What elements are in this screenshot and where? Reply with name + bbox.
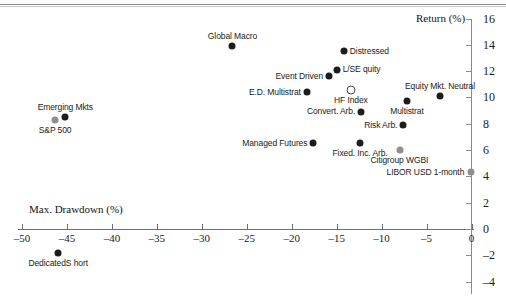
top-border-rule-secondary <box>0 6 506 7</box>
y-tick-label-6: 8 <box>483 116 489 131</box>
x-axis-title: Max. Drawdown (%) <box>29 203 123 215</box>
data-point-e-d-multistrat[interactable] <box>303 89 310 96</box>
data-point-global-macro[interactable] <box>229 43 236 50</box>
y-axis-title: Return (%) <box>416 12 465 24</box>
data-point-label-12: Managed Futures <box>242 138 307 148</box>
scatter-chart-figure: Max. Drawdown (%) Return (%) –50–45–40–3… <box>0 0 506 297</box>
x-tick-label-3: –35 <box>149 232 166 244</box>
x-tick-mark-3 <box>157 224 158 230</box>
data-point-event-driven[interactable] <box>325 73 332 80</box>
data-point-fixed-inc-arb[interactable] <box>357 140 364 147</box>
x-tick-label-5: –25 <box>239 232 256 244</box>
y-tick-label-7: 10 <box>483 90 495 105</box>
data-point-dedicateds-hort[interactable] <box>54 249 61 256</box>
x-tick-label-0: –50 <box>14 232 31 244</box>
x-tick-mark-7 <box>337 224 338 230</box>
data-point-risk-arb[interactable] <box>400 122 407 129</box>
y-tick-label-0: –4 <box>483 274 495 289</box>
x-tick-label-8: –10 <box>373 232 390 244</box>
data-point-label-1: Distressed <box>350 46 389 56</box>
data-point-label-10: S&P 500 <box>39 125 72 135</box>
data-point-label-4: Equity Mkt. Neutral <box>405 81 475 91</box>
x-tick-mark-0 <box>22 224 23 230</box>
data-point-hf-index[interactable] <box>347 85 356 94</box>
x-tick-label-6: –20 <box>283 232 300 244</box>
data-point-label-14: Citigroup WGBI <box>371 155 429 165</box>
y-tick-mark-10 <box>466 19 472 20</box>
x-tick-label-4: –30 <box>194 232 211 244</box>
data-point-s-p-500[interactable] <box>52 116 59 123</box>
data-point-equity-mkt-neutral[interactable] <box>437 93 444 100</box>
data-point-label-0: Global Macro <box>208 31 257 41</box>
data-point-l-se-quity[interactable] <box>333 66 340 73</box>
x-tick-label-9: –5 <box>421 232 432 244</box>
data-point-label-5: E.D. Multistrat <box>249 87 301 97</box>
x-tick-mark-1 <box>67 224 68 230</box>
y-tick-mark-8 <box>466 71 472 72</box>
y-tick-label-4: 4 <box>483 169 489 184</box>
data-point-label-15: LIBOR USD 1-month <box>387 167 465 177</box>
data-point-multistrat[interactable] <box>403 98 410 105</box>
x-tick-mark-8 <box>382 224 383 230</box>
data-point-distressed[interactable] <box>340 48 347 55</box>
data-point-emerging-mkts[interactable] <box>62 114 69 121</box>
y-tick-label-9: 14 <box>483 37 495 52</box>
x-tick-mark-9 <box>427 224 428 230</box>
x-tick-label-10: 0 <box>469 232 475 244</box>
data-point-label-6: HF Index <box>334 95 368 105</box>
y-tick-label-10: 16 <box>483 11 495 26</box>
data-point-label-7: Multistrat <box>390 106 423 116</box>
x-tick-label-7: –15 <box>328 232 345 244</box>
data-point-label-11: Risk Arb. <box>364 120 397 130</box>
data-point-label-9: Emerging Mkts <box>38 102 93 112</box>
x-tick-mark-5 <box>247 224 248 230</box>
y-tick-label-5: 6 <box>483 143 489 158</box>
y-tick-mark-0 <box>466 282 472 283</box>
data-point-label-2: L/SE quity <box>343 64 381 74</box>
y-tick-mark-4 <box>466 176 472 177</box>
data-point-convert-arb[interactable] <box>357 108 364 115</box>
data-point-label-16: DedicatedS hort <box>28 258 87 268</box>
x-tick-mark-2 <box>112 224 113 230</box>
y-tick-mark-6 <box>466 124 472 125</box>
y-tick-label-2: 0 <box>483 222 489 237</box>
y-tick-mark-3 <box>466 203 472 204</box>
top-border-rule <box>0 4 506 5</box>
data-point-libor-usd-1-month[interactable] <box>467 169 474 176</box>
y-tick-mark-1 <box>466 255 472 256</box>
y-axis-line <box>471 19 472 294</box>
data-point-citigroup-wgbi[interactable] <box>396 147 403 154</box>
y-tick-mark-9 <box>466 45 472 46</box>
data-point-managed-futures[interactable] <box>310 140 317 147</box>
data-point-label-8: Convert. Arb. <box>307 106 355 116</box>
data-point-label-3: Event Driven <box>276 71 323 81</box>
y-tick-mark-7 <box>466 97 472 98</box>
x-tick-mark-4 <box>202 224 203 230</box>
x-tick-label-2: –40 <box>104 232 121 244</box>
y-tick-mark-5 <box>466 150 472 151</box>
x-tick-mark-6 <box>292 224 293 230</box>
y-tick-mark-2 <box>466 229 472 230</box>
x-tick-label-1: –45 <box>59 232 76 244</box>
y-tick-label-1: –2 <box>483 248 495 263</box>
y-tick-label-8: 12 <box>483 64 495 79</box>
y-tick-label-3: 2 <box>483 195 489 210</box>
